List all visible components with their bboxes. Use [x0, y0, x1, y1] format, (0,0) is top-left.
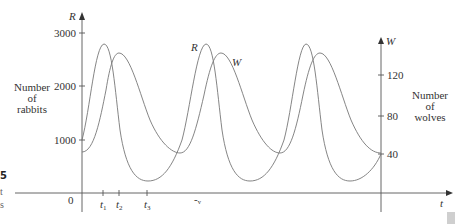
x-tick-t1: t1	[100, 198, 107, 212]
x-axis-arrow-icon	[446, 190, 453, 196]
right-tick-120: 120	[387, 69, 404, 81]
series-W-line	[82, 53, 381, 153]
x-tick-t3: t3	[144, 198, 151, 212]
figure-number: 5	[0, 170, 7, 181]
curve-label-W: W	[232, 56, 242, 68]
right-y-axis-arrow-icon	[378, 37, 384, 44]
x-axis-label-t: t	[440, 197, 444, 209]
left-axis-title: Number of rabbits	[4, 82, 60, 115]
left-y-axis-arrow-icon	[79, 12, 85, 20]
origin-label: 0	[68, 194, 74, 206]
right-axis-title: Number of wolves	[406, 90, 454, 123]
predator-prey-chart: 3000 2000 1000 120 80 40 R W t 0 t1 t2 t…	[0, 0, 455, 224]
x-tick-t2: t2	[116, 198, 123, 212]
page-edge-block	[447, 212, 455, 224]
left-tick-1000: 1000	[54, 134, 77, 146]
curve-label-R: R	[190, 41, 198, 53]
axis-mark: -ᵥ	[194, 193, 202, 205]
right-tick-80: 80	[387, 110, 399, 122]
figure-caption-fragment-2: s	[0, 199, 4, 210]
right-tick-40: 40	[387, 148, 399, 160]
right-axis-label-W: W	[386, 35, 396, 47]
figure-caption-fragment-1: t	[0, 186, 3, 197]
left-axis-label-R: R	[68, 10, 76, 22]
left-tick-3000: 3000	[54, 27, 77, 39]
